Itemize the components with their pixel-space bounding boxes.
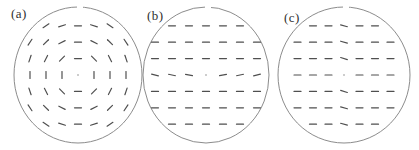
- director-dash-a: [91, 123, 98, 125]
- director-dash-a: [125, 55, 127, 62]
- director-dash-a: [44, 40, 49, 45]
- director-dash-b: [220, 74, 227, 75]
- director-dash-c: [341, 107, 348, 109]
- director-dash-a: [59, 123, 66, 125]
- director-field-figure: (a) (b) (c): [0, 0, 419, 150]
- director-dash-a: [44, 55, 47, 61]
- director-dash-a: [107, 24, 113, 28]
- director-dash-a: [28, 105, 32, 111]
- director-dash-a: [60, 56, 65, 61]
- director-dash-a: [91, 106, 97, 109]
- director-dash-b: [152, 74, 159, 76]
- director-dash-a: [59, 41, 65, 44]
- director-dash-c: [341, 41, 348, 43]
- director-dash-c: [341, 25, 348, 27]
- director-dash-c: [341, 58, 348, 60]
- defect-core-dot-c: [343, 74, 345, 76]
- director-dash-a: [108, 40, 113, 45]
- director-dash-b: [237, 74, 244, 75]
- director-dash-a: [108, 55, 111, 61]
- director-dash-a: [60, 89, 65, 94]
- director-dash-a: [59, 106, 65, 109]
- outline-gap-b: [205, 5, 211, 9]
- panel-c-label: (c): [284, 11, 300, 24]
- director-dash-a: [29, 55, 31, 62]
- outline-gap-a: [77, 5, 83, 9]
- director-dash-a: [59, 25, 66, 27]
- director-dash-a: [108, 88, 111, 94]
- director-dash-b: [254, 74, 261, 76]
- director-dash-a: [124, 105, 128, 111]
- director-dash-a: [29, 88, 31, 95]
- director-dash-b: [169, 74, 176, 75]
- director-dash-c: [341, 123, 348, 125]
- director-dash-a: [91, 25, 98, 27]
- director-dash-a: [91, 41, 97, 44]
- panel-b-label: (b): [147, 9, 164, 22]
- defect-core-dot-b: [205, 74, 207, 76]
- director-dash-a: [43, 122, 49, 126]
- director-dash-a: [92, 89, 97, 94]
- director-dash-a: [124, 39, 128, 45]
- director-dash-a: [28, 39, 32, 45]
- director-dash-a: [125, 88, 127, 95]
- director-dash-c: [341, 90, 348, 92]
- defect-core-dot-a: [77, 74, 79, 76]
- director-dash-a: [44, 105, 49, 110]
- director-dash-a: [108, 105, 113, 110]
- director-dash-a: [107, 122, 113, 126]
- director-dash-a: [92, 56, 97, 61]
- director-dash-a: [43, 24, 49, 28]
- director-dash-b: [186, 74, 193, 75]
- outline-gap-c: [343, 5, 349, 9]
- panel-a-label: (a): [11, 7, 27, 20]
- field-svg: [0, 0, 419, 150]
- director-dash-a: [44, 88, 47, 94]
